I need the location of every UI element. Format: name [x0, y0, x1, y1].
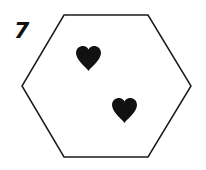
- hexagon-outline: [22, 15, 191, 157]
- hexagon-figure: [0, 0, 206, 170]
- heart-icon: [112, 98, 137, 123]
- heart-icon: [76, 46, 101, 71]
